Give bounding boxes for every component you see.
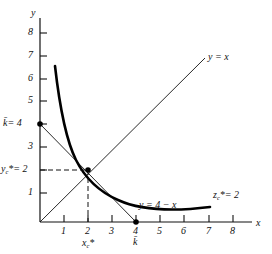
- annotation-y-star: yc*= 2: [1, 164, 28, 175]
- y-tick-label-6: 6: [28, 73, 33, 83]
- k-bar-y-equals: = 4: [7, 117, 21, 128]
- x-tick-label-7: 7: [206, 226, 211, 236]
- y-tick-label-3: 3: [28, 141, 33, 151]
- series-curve-xy-equals-4: [55, 66, 210, 210]
- k-bar-symbol-x: k̄: [133, 236, 137, 247]
- y-axis-ticks: [40, 33, 47, 193]
- annotation-y-equals-x: y = x: [208, 52, 229, 62]
- annotation-y-equals-4-minus-x: y = 4 − x: [139, 200, 176, 210]
- annotation-z-star: zc*= 2: [213, 190, 239, 201]
- x-tick-label-6: 6: [181, 226, 186, 236]
- plot-canvas: [0, 0, 272, 254]
- point-k-bar-x-axis: [133, 219, 139, 225]
- figure-xy-optimization-plot: y x 8 7 6 5 3 1 1 2 3 4 5 6 7 8 k̄= 4 yc…: [0, 0, 272, 254]
- x-tick-label-2: 2: [85, 226, 90, 236]
- y-axis-label: y: [31, 8, 35, 18]
- y-star-equals: = 2: [13, 163, 27, 174]
- y-tick-label-8: 8: [28, 27, 33, 37]
- x-tick-label-8: 8: [230, 226, 235, 236]
- point-k-bar-y-axis: [37, 121, 43, 127]
- point-optimum: [85, 167, 91, 173]
- y-4x-lhs: y: [139, 199, 143, 210]
- x-star-asterisk: *: [89, 237, 94, 248]
- annotation-k-bar-y: k̄= 4: [3, 118, 22, 128]
- series-line-y-equals-x: [40, 58, 205, 222]
- y-tick-label-5: 5: [28, 95, 33, 105]
- x-tick-label-3: 3: [109, 226, 114, 236]
- x-axis-label: x: [256, 218, 260, 228]
- x-tick-label-5: 5: [157, 226, 162, 236]
- y-tick-label-1: 1: [28, 187, 33, 197]
- x-tick-label-4: 4: [133, 226, 138, 236]
- x-axis-ticks: [64, 215, 233, 222]
- z-star-equals: = 2: [225, 189, 239, 200]
- y-4x-eq: =: [146, 199, 153, 210]
- y-tick-label-7: 7: [28, 50, 33, 60]
- annotation-k-bar-x: k̄: [133, 237, 137, 247]
- y-4x-rhs: 4 − x: [155, 199, 176, 210]
- x-tick-label-1: 1: [61, 226, 66, 236]
- annotation-x-star: xc*: [82, 238, 94, 249]
